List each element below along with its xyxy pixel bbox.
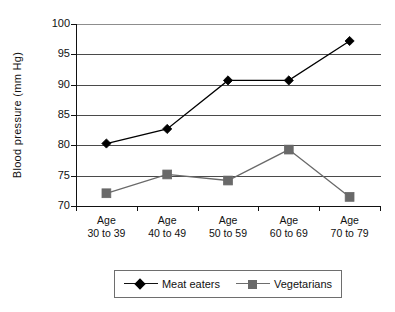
x-axis-tick-mark [258, 206, 259, 211]
plot-area [76, 24, 381, 207]
x-axis-tick-mark [137, 206, 138, 211]
gridline [77, 85, 381, 86]
x-axis-category-label: Age60 to 69 [258, 214, 319, 248]
gridline [77, 176, 381, 177]
y-axis-tick-mark [71, 115, 76, 116]
y-axis-tick-label: 80 [24, 139, 70, 150]
x-axis-category-label: Age40 to 49 [137, 214, 198, 248]
x-axis-category-line1: Age [76, 214, 137, 227]
x-axis-category-line2: 70 to 79 [319, 227, 380, 240]
y-axis-tick-mark [71, 176, 76, 177]
x-axis-category-line2: 60 to 69 [258, 227, 319, 240]
gridline [77, 145, 381, 146]
y-axis-tick-mark [71, 145, 76, 146]
x-axis-category-labels: Age30 to 39Age40 to 49Age50 to 59Age60 t… [76, 214, 380, 248]
y-axis-tick-label: 95 [24, 48, 70, 59]
legend-item-meat-eaters[interactable]: Meat eaters [124, 278, 220, 290]
y-axis-tick-label: 85 [24, 109, 70, 120]
x-axis-category-line1: Age [258, 214, 319, 227]
y-axis-tick-mark [71, 85, 76, 86]
x-axis-category-line1: Age [319, 214, 380, 227]
y-axis-tick-mark [71, 54, 76, 55]
line-chart: Blood pressure (mm Hg) 707580859095100 A… [0, 0, 395, 312]
y-axis-tick-label: 75 [24, 170, 70, 181]
y-axis-tick-label: 100 [24, 18, 70, 29]
gridline [77, 24, 381, 25]
x-axis-category-line1: Age [137, 214, 198, 227]
gridlines-group [77, 24, 381, 206]
x-axis-tick-mark [319, 206, 320, 211]
y-axis-tick-label: 70 [24, 200, 70, 211]
legend-label-vegetarians: Vegetarians [274, 278, 332, 290]
legend-marker-square-icon [236, 278, 270, 290]
y-axis-tick-mark [71, 24, 76, 25]
x-axis-category-line1: Age [198, 214, 259, 227]
legend-item-vegetarians[interactable]: Vegetarians [236, 278, 332, 290]
gridline [77, 115, 381, 116]
legend-label-meat-eaters: Meat eaters [162, 278, 220, 290]
y-axis-tick-label: 90 [24, 79, 70, 90]
legend-marker-diamond-icon [124, 278, 158, 290]
x-axis-category-label: Age50 to 59 [198, 214, 259, 248]
chart-legend: Meat eaters Vegetarians [114, 270, 342, 298]
gridline [77, 54, 381, 55]
x-axis-tick-mark [380, 206, 381, 211]
x-axis-category-line2: 30 to 39 [76, 227, 137, 240]
y-axis-tick-labels: 707580859095100 [20, 24, 70, 206]
x-axis-category-line2: 50 to 59 [198, 227, 259, 240]
x-axis-category-label: Age30 to 39 [76, 214, 137, 248]
x-axis-tick-mark [76, 206, 77, 211]
x-axis-category-line2: 40 to 49 [137, 227, 198, 240]
x-axis-category-label: Age70 to 79 [319, 214, 380, 248]
x-axis-tick-mark [198, 206, 199, 211]
